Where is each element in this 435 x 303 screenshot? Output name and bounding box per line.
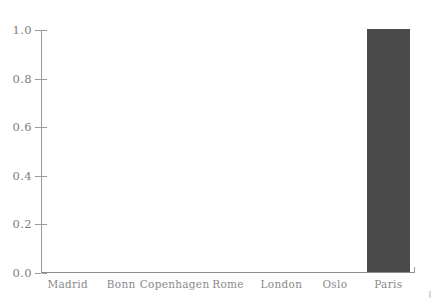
plot-axes-area: 0.00.20.40.60.81.0 MadridBonnCopenhagenR… (41, 30, 415, 273)
y-axis-tick (35, 79, 41, 80)
y-axis-tick-inner (42, 79, 47, 80)
x-axis-tick-label: London (261, 278, 303, 290)
x-axis-tick-label: Paris (374, 278, 402, 290)
y-axis-tick-inner (42, 127, 47, 128)
x-axis-tick-label: Rome (212, 278, 244, 290)
x-axis-spine (41, 272, 415, 273)
y-axis-spine (41, 30, 42, 273)
corner-artifact (429, 291, 431, 298)
y-axis-tick-inner (42, 176, 47, 177)
x-axis-tick-label: Oslo (322, 278, 347, 290)
y-axis-tick-inner (42, 30, 47, 31)
bar-chart-figure: 0.00.20.40.60.81.0 MadridBonnCopenhagenR… (0, 0, 435, 303)
x-axis-tick-label: Bonn (107, 278, 136, 290)
y-axis-tick-label: 0.6 (13, 120, 33, 134)
y-axis-tick-label: 0.0 (13, 266, 33, 280)
y-axis-tick (35, 273, 41, 274)
y-axis-tick-inner (42, 224, 47, 225)
y-axis-tick-label: 0.8 (13, 72, 33, 86)
bar-paris[interactable] (367, 29, 410, 272)
y-axis-tick-label: 1.0 (13, 23, 33, 37)
x-axis-tick-label: Copenhagen (140, 278, 210, 290)
x-axis-tick-label: Madrid (47, 278, 88, 290)
y-axis-tick-inner (42, 273, 47, 274)
y-axis-tick (35, 176, 41, 177)
y-axis-tick (35, 127, 41, 128)
y-axis-tick-label: 0.2 (13, 217, 33, 231)
y-axis-tick (35, 224, 41, 225)
x-axis-end-cap (414, 267, 415, 273)
y-axis-tick (35, 30, 41, 31)
y-axis-tick-label: 0.4 (13, 169, 33, 183)
